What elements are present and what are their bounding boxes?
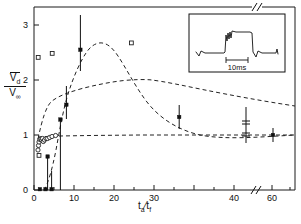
y-tick-label-3: 3 (23, 20, 28, 30)
x-tick-label-20: 20 (109, 193, 119, 203)
x-axis-label-numerator: ta (138, 200, 145, 211)
x-tick-label-60: 60 (267, 193, 277, 203)
x-axis-label: ta⁄tf (138, 200, 151, 213)
y-tick-label-0: 0 (23, 185, 28, 195)
x-tick-label-0: 0 (31, 193, 36, 203)
saturating-dashed-curve (38, 80, 295, 139)
oscilloscope-trace-inset: 10ms (189, 14, 285, 72)
y-axis-label-denominator: V∞ (2, 88, 28, 100)
inset-scalebar-label: 10ms (228, 63, 247, 72)
x-ticks (34, 185, 290, 190)
y-axis-label-numerator: Vd (2, 72, 28, 85)
open-circle-markers (36, 133, 58, 152)
chart-canvas: 0 1 2 3 0 10 20 30 40 60 (0, 0, 301, 224)
x-tick-label-10: 10 (69, 193, 79, 203)
y-axis-label: Vd V∞ (2, 72, 28, 100)
figure-panel: 0 1 2 3 0 10 20 30 40 60 (0, 0, 301, 224)
x-axis-label-denominator: tf (146, 200, 151, 211)
top-axis-break-icon (252, 3, 262, 11)
x-tick-label-40: 40 (229, 193, 239, 203)
y-tick-label-1: 1 (23, 130, 28, 140)
y-ticks (34, 25, 39, 190)
